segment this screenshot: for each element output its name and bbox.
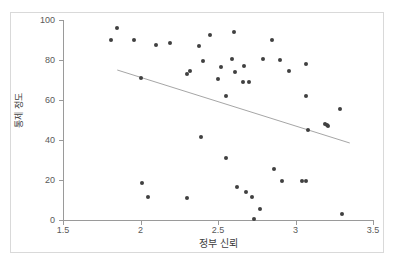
data-point: [201, 59, 205, 63]
data-point: [139, 76, 143, 80]
y-tick-label: 0: [29, 216, 55, 225]
data-point: [235, 185, 239, 189]
data-point: [280, 179, 284, 183]
y-tick-label: 40: [29, 136, 55, 145]
data-point: [185, 196, 189, 200]
x-tick-label: 3: [281, 226, 311, 235]
x-tick-label: 1.5: [48, 226, 78, 235]
y-tick-label: 80: [29, 56, 55, 65]
plot-area: [63, 20, 373, 220]
x-tick-label: 3.5: [358, 226, 388, 235]
data-point: [232, 30, 236, 34]
y-tick-label: 60: [29, 96, 55, 105]
trend-line: [63, 20, 373, 220]
data-point: [224, 156, 228, 160]
data-point: [168, 41, 172, 45]
y-tick-label: 20: [29, 176, 55, 185]
x-tick-label: 2.5: [203, 226, 233, 235]
data-point: [154, 43, 158, 47]
y-tick-label: 100: [29, 16, 55, 25]
data-point: [278, 58, 282, 62]
y-axis-title: 통제 정도: [12, 81, 25, 141]
chart-figure: 020406080100 1.522.533.5 통제 정도 정부 신뢰: [0, 0, 395, 265]
data-point: [306, 128, 310, 132]
data-point: [258, 207, 262, 211]
data-point: [140, 181, 144, 185]
x-tick-label: 2: [126, 226, 156, 235]
x-axis-title: 정부 신뢰: [63, 238, 374, 249]
data-point: [272, 167, 276, 171]
